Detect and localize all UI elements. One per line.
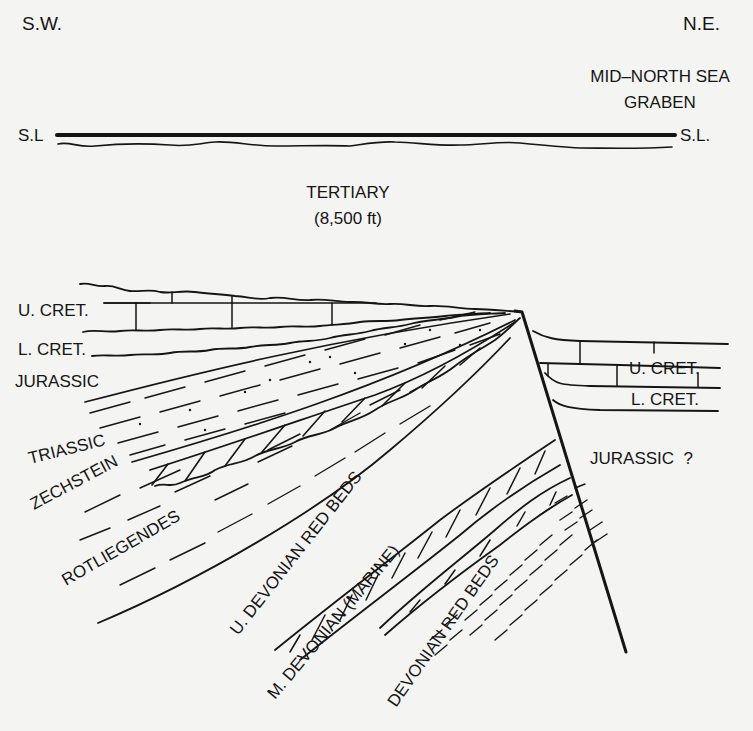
sea-level-right-label: S.L.	[680, 126, 710, 145]
l-cret-left-label: L. CRET.	[18, 340, 86, 359]
region-label-line1: MID–NORTH SEA	[590, 67, 730, 86]
u-cret-left-layer	[80, 284, 522, 332]
u-cret-left-label: U. CRET.	[18, 301, 89, 320]
rotliegendes-layer	[80, 338, 510, 623]
u-cret-right-label: U. CRET.	[629, 359, 700, 378]
tertiary-label: TERTIARY	[306, 183, 389, 202]
region-label-line2: GRABEN	[624, 93, 696, 112]
jurassic-right-label: JURASSIC ?	[590, 449, 693, 468]
cross-section-figure: S.W. N.E. MID–NORTH SEA GRABEN S.L S.L. …	[0, 0, 753, 731]
cross-section-drawing: S.W. N.E. MID–NORTH SEA GRABEN S.L S.L. …	[0, 0, 753, 731]
sw-orientation-label: S.W.	[22, 13, 62, 34]
seabed-line	[58, 142, 672, 148]
tertiary-thickness-label: (8,500 ft)	[314, 209, 382, 228]
jurassic-left-label: JURASSIC	[15, 372, 99, 391]
ne-orientation-label: N.E.	[683, 13, 720, 34]
rotliegendes-label: ROTLIEGENDES	[59, 506, 184, 589]
sea-level-left-label: S.L	[18, 126, 44, 145]
devonian-red-beds-label: DEVONIAN RED BEDS	[384, 552, 503, 711]
l-cret-right-label: L. CRET.	[631, 390, 699, 409]
